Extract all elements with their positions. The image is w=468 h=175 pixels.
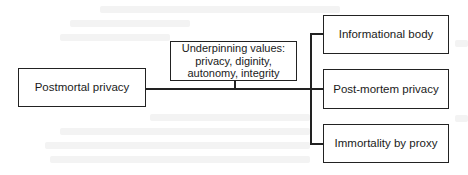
root-node-postmortal-privacy: Postmortal privacy (18, 68, 146, 107)
bracket-branch-1-line (310, 33, 323, 35)
branch-node-immortality-by-proxy: Immortality by proxy (323, 124, 449, 163)
branch-node-post-mortem-privacy: Post-mortem privacy (323, 69, 449, 109)
values-node: Underpinning values: privacy, diginity, … (170, 41, 297, 81)
values-connector-line (234, 80, 236, 89)
branch-node-label: Immortality by proxy (335, 137, 438, 150)
branch-node-informational-body: Informational body (323, 15, 449, 54)
bracket-branch-3-line (310, 143, 323, 145)
root-node-label: Postmortal privacy (35, 81, 130, 94)
main-connector-line (145, 88, 311, 90)
bracket-branch-2-line (310, 88, 323, 90)
branch-node-label: Post-mortem privacy (333, 83, 438, 96)
branch-node-label: Informational body (339, 28, 434, 41)
values-node-label: Underpinning values: privacy, diginity, … (171, 42, 296, 80)
